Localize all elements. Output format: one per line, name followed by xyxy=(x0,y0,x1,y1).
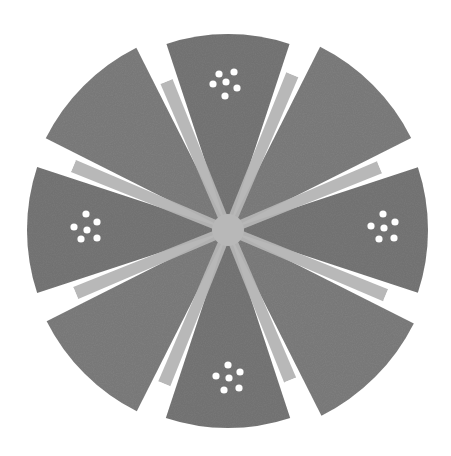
rim-gap xyxy=(292,31,310,74)
rim-gap xyxy=(30,148,73,166)
dot xyxy=(93,234,100,241)
dot xyxy=(82,210,89,217)
dot xyxy=(230,68,237,75)
dot xyxy=(221,92,228,99)
dot xyxy=(220,386,227,393)
dot xyxy=(380,224,387,231)
dot xyxy=(375,235,382,242)
rim-gap xyxy=(380,150,422,168)
dot xyxy=(235,384,242,391)
dot xyxy=(83,226,90,233)
dot xyxy=(70,223,77,230)
disk-image xyxy=(0,0,451,456)
dot xyxy=(224,361,231,368)
dot xyxy=(77,235,84,242)
dot xyxy=(236,368,243,375)
dot xyxy=(225,374,232,381)
rim-gap xyxy=(146,384,164,427)
dot xyxy=(215,70,222,77)
dot xyxy=(212,372,219,379)
dot xyxy=(391,218,398,225)
rim-gap xyxy=(33,293,76,311)
dot xyxy=(93,218,100,225)
dot xyxy=(379,210,386,217)
dot xyxy=(233,84,240,91)
dot xyxy=(367,222,374,229)
dot xyxy=(390,234,397,241)
dot xyxy=(209,80,216,87)
rim-gap xyxy=(386,295,430,313)
rim-gap xyxy=(149,40,166,82)
dot xyxy=(222,78,229,85)
center-hub xyxy=(212,214,244,246)
rim-gap xyxy=(290,380,307,422)
